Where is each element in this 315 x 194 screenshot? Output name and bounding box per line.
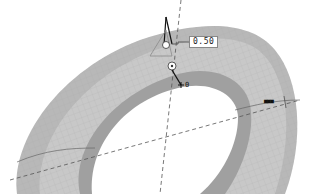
- cad-3d-viewport[interactable]: 0.50 0 ■■■: [0, 0, 315, 194]
- marker-label: 0: [185, 81, 189, 89]
- ring-body: [16, 26, 297, 194]
- tag-label: ■■■: [264, 97, 273, 104]
- dimension-value-label[interactable]: 0.50: [189, 36, 218, 48]
